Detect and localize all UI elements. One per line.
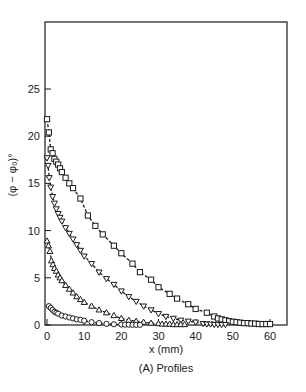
square-marker	[93, 223, 98, 228]
y-tick-label: 15	[28, 177, 40, 189]
square-marker	[156, 285, 161, 290]
x-tick-label: 30	[152, 330, 164, 342]
figure-caption: (A) Profiles	[139, 362, 194, 374]
triangle-down-marker	[70, 237, 76, 242]
circle-marker	[104, 321, 109, 326]
triangle-up-marker	[47, 248, 53, 253]
square-marker	[130, 261, 135, 266]
x-tick-label: 40	[190, 330, 202, 342]
triangle-up-marker	[96, 307, 102, 312]
x-tick-label: 10	[78, 330, 90, 342]
circle-marker	[82, 318, 87, 323]
series-squares	[44, 117, 272, 327]
x-tick-label: 60	[264, 330, 276, 342]
circle-marker	[89, 320, 94, 325]
square-marker	[267, 321, 272, 326]
square-marker	[59, 169, 64, 174]
x-tick-label: 0	[44, 330, 50, 342]
triangle-down-marker	[156, 312, 162, 317]
square-marker	[193, 306, 198, 311]
y-tick-label: 20	[28, 130, 40, 142]
square-marker	[63, 175, 68, 180]
profiles-chart: 0510152025 0102030405060 x (mm) (φ − φ₀)…	[0, 0, 306, 392]
y-tick-label: 5	[34, 272, 40, 284]
square-marker	[100, 232, 105, 237]
square-marker	[186, 302, 191, 307]
x-tick-label: 20	[115, 330, 127, 342]
square-marker	[70, 186, 75, 191]
square-marker	[46, 130, 51, 135]
square-marker	[50, 151, 55, 156]
square-marker	[204, 310, 209, 315]
square-marker	[137, 270, 142, 275]
triangle-down-marker	[48, 185, 54, 190]
y-tick-label: 25	[28, 83, 40, 95]
circle-marker	[137, 322, 142, 327]
y-tick-label: 0	[34, 319, 40, 331]
triangle-down-marker	[59, 219, 65, 224]
square-marker	[148, 277, 153, 282]
triangle-down-marker	[50, 195, 56, 200]
y-axis-title: (φ − φ₀)°	[6, 153, 18, 196]
circle-marker	[96, 321, 101, 326]
x-axis-title: x (mm)	[149, 343, 183, 355]
triangle-down-marker	[77, 248, 83, 253]
square-marker	[85, 213, 90, 218]
triangle-down-marker	[51, 201, 57, 206]
series-line	[47, 119, 270, 324]
triangle-up-marker	[111, 312, 117, 317]
triangle-down-marker	[45, 163, 51, 168]
y-tick-label: 10	[28, 225, 40, 237]
triangle-down-marker	[133, 299, 139, 304]
triangle-down-marker	[46, 176, 52, 181]
triangle-down-marker	[126, 295, 132, 300]
plot-frame	[45, 22, 287, 325]
square-marker	[119, 251, 124, 256]
square-marker	[111, 243, 116, 248]
x-tick-label: 50	[227, 330, 239, 342]
square-marker	[44, 117, 49, 122]
data-series	[44, 117, 273, 328]
square-marker	[174, 296, 179, 301]
square-marker	[78, 196, 83, 201]
square-marker	[167, 291, 172, 296]
circle-marker	[111, 322, 116, 327]
